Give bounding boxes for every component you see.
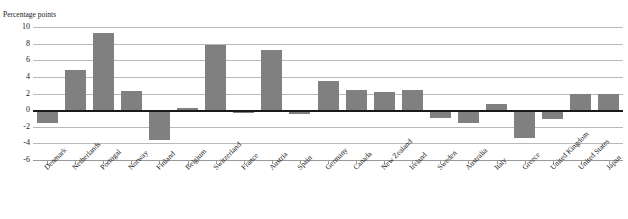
chart-title [0,0,628,3]
gridline [33,143,623,144]
y-axis-tick-label: 2 [2,90,30,98]
bar-chart: Percentage points 1086420-2-4-6 DenmarkN… [0,0,628,219]
zero-line [33,110,623,111]
gridline [33,44,623,45]
y-axis-tick-label: 4 [2,73,30,81]
y-axis-tick-label: -6 [2,156,30,164]
bar [65,70,86,110]
bar [346,90,367,110]
bar [318,81,339,110]
bar [37,110,58,122]
y-axis-title: Percentage points [3,10,56,19]
y-axis-tick-labels: 1086420-2-4-6 [0,27,30,160]
y-axis-tick-label: -2 [2,123,30,131]
bar [570,94,591,111]
plot-area [33,27,623,160]
y-axis-tick-label: 6 [2,56,30,64]
bar [261,50,282,110]
gridline [33,27,623,28]
y-axis-tick-label: 0 [2,106,30,114]
bar [374,92,395,110]
bar [458,110,479,123]
gridline [33,77,623,78]
bar [598,94,619,111]
bar [121,91,142,110]
gridline [33,60,623,61]
y-axis-tick-label: -4 [2,139,30,147]
bar [514,110,535,138]
bar [149,110,170,140]
y-axis-tick-label: 10 [2,23,30,31]
bar [93,33,114,110]
bar [402,90,423,110]
y-axis-tick-label: 8 [2,40,30,48]
bar [205,45,226,110]
